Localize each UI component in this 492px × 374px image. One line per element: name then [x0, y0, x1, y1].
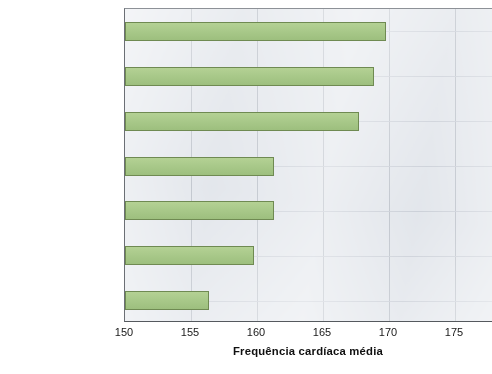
- bar-flanagan[interactable]: [125, 22, 386, 41]
- x-tick-label-175: 175: [424, 326, 484, 338]
- bar-florida-james[interactable]: [125, 157, 274, 176]
- x-tick-label-155: 155: [160, 326, 220, 338]
- gridline-x-165: [323, 9, 324, 321]
- x-tick-label-165: 165: [292, 326, 352, 338]
- bar-bangsbo[interactable]: [125, 246, 254, 265]
- gridline-x-175: [455, 9, 456, 321]
- bar-ali[interactable]: [125, 67, 374, 86]
- cropped-caption-sliver: [14, 368, 274, 374]
- bar-van-gool[interactable]: [125, 112, 359, 131]
- x-tick-label-150: 150: [94, 326, 154, 338]
- plot-area: [124, 8, 492, 322]
- page-background: Flanagan (2002)Ali (1991)Van Gool (1988)…: [0, 0, 492, 374]
- x-axis-title: Frequência cardíaca média: [124, 345, 492, 357]
- bar-chart-figure: Flanagan (2002)Ali (1991)Van Gool (1988)…: [0, 0, 492, 374]
- x-tick-label-170: 170: [358, 326, 418, 338]
- x-tick-label-160: 160: [226, 326, 286, 338]
- bar-ogushi[interactable]: [125, 201, 274, 220]
- gridline-x-170: [389, 9, 390, 321]
- bar-reilly[interactable]: [125, 291, 209, 310]
